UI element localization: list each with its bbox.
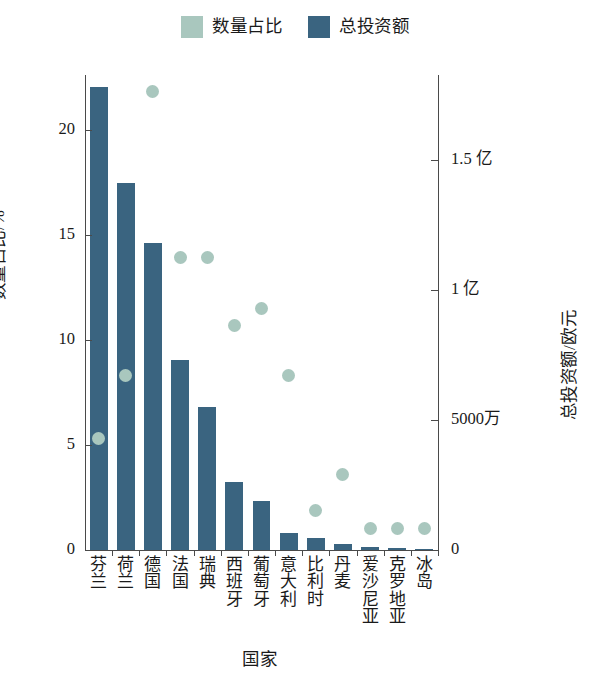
- x-axis-tick-label: 瑞典: [194, 556, 220, 591]
- scatter-point: [119, 369, 132, 382]
- y-axis-left-tick: [85, 235, 92, 236]
- axis-spine-bottom: [85, 550, 438, 551]
- x-axis-tick-label: 比利时: [303, 556, 329, 608]
- scatter-point: [309, 504, 322, 517]
- x-axis-tick-label: 芬兰: [86, 556, 112, 591]
- x-axis-title: 国家: [0, 645, 520, 670]
- x-axis-tick-label: 意大利: [276, 556, 302, 608]
- y-axis-left-tick-label: 10: [27, 331, 75, 348]
- y-axis-left-tick: [85, 445, 92, 446]
- scatter-point: [282, 369, 295, 382]
- scatter-point: [92, 432, 105, 445]
- legend-label-total-investment: 总投资额: [339, 18, 409, 36]
- y-axis-left-tick: [85, 550, 92, 551]
- y-axis-right-tick-label: 0: [451, 541, 459, 558]
- y-axis-left-tick: [85, 340, 92, 341]
- scatter-point: [364, 522, 377, 535]
- legend-label-count-share: 数量占比: [212, 18, 282, 36]
- y-axis-left-tick-label: 0: [27, 541, 75, 558]
- scatter-point: [201, 251, 214, 264]
- legend-entry-total-investment: 总投资额: [308, 16, 409, 38]
- x-axis-tick-label: 丹麦: [330, 556, 356, 591]
- axis-spine-right: [438, 75, 439, 550]
- x-axis-tick-label: 荷兰: [113, 556, 139, 591]
- scatter-point: [255, 302, 268, 315]
- scatter-point: [336, 468, 349, 481]
- y-axis-right-tick-label: 5000万: [451, 411, 501, 428]
- x-axis-tick-label: 西班牙: [221, 556, 247, 608]
- y-axis-right-tick: [431, 290, 438, 291]
- x-axis-tick-label: 克罗地亚: [384, 556, 410, 625]
- plot-area: 05101520 05000万1 亿1.5 亿: [85, 75, 438, 550]
- scatter-point: [228, 319, 241, 332]
- y-axis-right-title: 总投资额/欧元: [555, 220, 580, 420]
- legend-swatch-count-share: [181, 16, 203, 38]
- y-axis-right-tick-label: 1.5 亿: [451, 151, 493, 168]
- y-axis-right-tick-label: 1 亿: [451, 281, 480, 298]
- x-axis-tick-label: 德国: [140, 556, 166, 591]
- x-axis-tick-label: 冰岛: [411, 556, 437, 591]
- y-axis-left-tick-label: 15: [27, 226, 75, 243]
- x-axis-tick: [438, 550, 439, 556]
- scatter-point: [391, 522, 404, 535]
- y-axis-right-tick: [431, 420, 438, 421]
- legend-swatch-total-investment: [308, 16, 330, 38]
- y-axis-left-tick: [85, 130, 92, 131]
- chart-legend: 数量占比 总投资额: [0, 16, 590, 38]
- x-axis-tick-label: 法国: [167, 556, 193, 591]
- chart-figure: 数量占比 总投资额 05101520 05000万1 亿1.5 亿 芬兰荷兰德国…: [0, 0, 590, 681]
- y-axis-left-tick-label: 5: [27, 436, 75, 453]
- y-axis-left-title: 数量占比/%: [0, 140, 9, 300]
- scatter-point: [146, 85, 159, 98]
- x-axis-tick-label: 爱沙尼亚: [357, 556, 383, 625]
- legend-entry-count-share: 数量占比: [181, 16, 282, 38]
- scatter-point: [418, 522, 431, 535]
- scatter-series-count-share: [85, 75, 438, 550]
- y-axis-left-tick-label: 20: [27, 121, 75, 138]
- x-axis-tick-label: 葡萄牙: [249, 556, 275, 608]
- scatter-point: [174, 251, 187, 264]
- y-axis-right-tick: [431, 160, 438, 161]
- y-axis-right-tick: [431, 550, 438, 551]
